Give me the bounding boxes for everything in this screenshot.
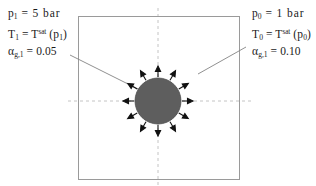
- close-paren: ): [63, 28, 67, 40]
- left-temperature-line: T1 = Tsat (p1): [8, 23, 67, 42]
- figure-canvas: p1 = 5 bar T1 = Tsat (p1) αg,1 = 0.05 p0…: [0, 0, 316, 186]
- ambient-liquid-conditions-label: p0 = 1 bar T0 = Tsat (p0) αg,1 = 0.10: [252, 4, 311, 61]
- vapor-bubble: [135, 78, 181, 124]
- inner-bubble-conditions-label: p1 = 5 bar T1 = Tsat (p1) αg,1 = 0.05: [8, 4, 67, 61]
- equals-T: = T: [263, 28, 282, 40]
- equals-T: = T: [19, 28, 38, 40]
- right-leader-line: [198, 47, 246, 74]
- growth-arrow-icon: [123, 98, 134, 103]
- growth-arrow-icon: [138, 69, 148, 81]
- growth-arrow-icon: [126, 81, 138, 91]
- left-pressure-line: p1 = 5 bar: [8, 4, 67, 23]
- growth-arrow-icon: [138, 120, 148, 132]
- left-pressure-value: = 5 bar: [18, 7, 61, 19]
- open-paren-p: (p: [290, 28, 303, 40]
- subscript-g1: g,1: [258, 50, 268, 59]
- open-paren-p: (p: [46, 28, 59, 40]
- right-void-fraction-line: αg,1 = 0.10: [252, 42, 311, 61]
- growth-arrow-icon: [182, 98, 193, 103]
- right-temperature-line: T0 = Tsat (p0): [252, 23, 311, 42]
- growth-arrow-icon: [177, 81, 189, 91]
- left-void-fraction-line: αg,1 = 0.05: [8, 42, 67, 61]
- right-void-fraction-value: = 0.10: [268, 45, 301, 57]
- growth-arrow-icon: [168, 69, 178, 81]
- close-paren: ): [307, 28, 311, 40]
- growth-arrow-icon: [168, 120, 178, 132]
- growth-arrow-icon: [155, 66, 160, 77]
- subscript-g1: g,1: [14, 50, 24, 59]
- left-void-fraction-value: = 0.05: [24, 45, 57, 57]
- growth-arrow-icon: [177, 111, 189, 121]
- growth-arrow-icon: [126, 111, 138, 121]
- right-pressure-line: p0 = 1 bar: [252, 4, 311, 23]
- growth-arrow-icon: [155, 125, 160, 136]
- right-pressure-value: = 1 bar: [262, 7, 305, 19]
